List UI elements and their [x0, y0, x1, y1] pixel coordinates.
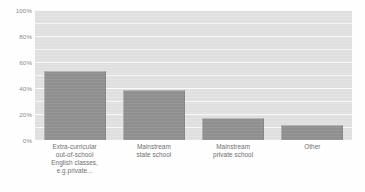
y-tick-label: 100%: [3, 7, 32, 14]
x-tick-label-line: private school: [194, 151, 273, 159]
x-tick-label-line: Extra-curricular: [35, 143, 114, 151]
x-tick-label-line: state school: [114, 151, 193, 159]
y-tick-label: 60%: [3, 59, 32, 66]
x-tick-label-line: English classes,: [35, 159, 114, 167]
bar: [281, 125, 343, 140]
x-tick-label: Other: [273, 143, 352, 151]
bar-chart: 100% 80% 60% 40% 20% 0% Extra-curricular…: [0, 0, 365, 192]
bar-slot: [202, 10, 264, 140]
bar-slot: [44, 10, 106, 140]
x-tick-label: Mainstreamstate school: [114, 143, 193, 159]
x-tick-label-line: Mainstream: [114, 143, 193, 151]
bar: [44, 71, 106, 140]
bar-series: [35, 10, 352, 140]
x-tick-label: Extra-curricularout-of-schoolEnglish cla…: [35, 143, 114, 175]
plot-area: [35, 10, 352, 140]
x-tick-label-line: out-of-school: [35, 151, 114, 159]
x-axis: Extra-curricularout-of-schoolEnglish cla…: [35, 143, 352, 192]
x-tick-label-line: Mainstream: [194, 143, 273, 151]
y-tick-label: 80%: [3, 33, 32, 40]
x-tick-label-line: e.g.private...: [35, 167, 114, 175]
bar: [123, 90, 185, 140]
bar-slot: [281, 10, 343, 140]
y-axis: 100% 80% 60% 40% 20% 0%: [3, 0, 32, 192]
x-tick-label: Mainstreamprivate school: [194, 143, 273, 159]
y-tick-label: 40%: [3, 85, 32, 92]
x-tick-label-line: Other: [273, 143, 352, 151]
y-tick-label: 20%: [3, 111, 32, 118]
bar-slot: [123, 10, 185, 140]
bar: [202, 118, 264, 140]
y-tick-label: 0%: [3, 137, 32, 144]
